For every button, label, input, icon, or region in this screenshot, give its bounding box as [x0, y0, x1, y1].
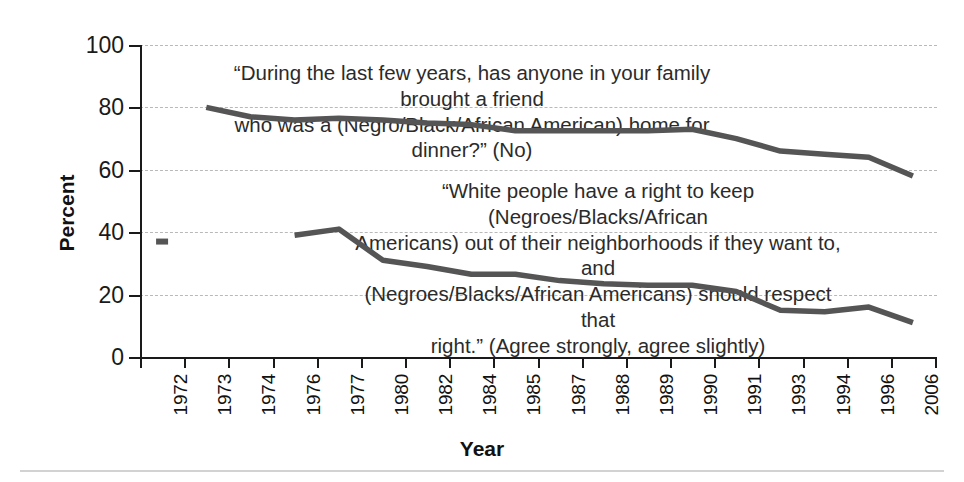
y-tick — [129, 45, 140, 47]
x-tick — [891, 357, 893, 368]
y-tick-label: 80 — [98, 94, 124, 121]
x-tick — [273, 357, 275, 368]
x-tick — [140, 357, 142, 368]
x-tick-label: 1988 — [612, 374, 634, 415]
x-tick-label: 1994 — [833, 374, 855, 415]
x-tick-label: 1980 — [391, 374, 413, 415]
x-tick-label: 1973 — [214, 374, 236, 415]
y-tick-label: 60 — [98, 156, 124, 183]
x-tick-label: 1985 — [523, 374, 545, 415]
x-tick — [184, 357, 186, 368]
x-tick-label: 1996 — [877, 374, 899, 415]
x-tick-label: 1993 — [788, 374, 810, 415]
y-tick — [129, 357, 140, 359]
y-tick-label: 40 — [98, 219, 124, 246]
y-tick — [129, 107, 140, 109]
y-tick-label: 100 — [86, 32, 124, 59]
x-tick-label: 1974 — [258, 374, 280, 415]
y-tick-label: 20 — [98, 281, 124, 308]
x-tick-label: 1982 — [435, 374, 457, 415]
x-tick — [228, 357, 230, 368]
x-tick-label: 1989 — [656, 374, 678, 415]
y-tick — [129, 170, 140, 172]
chart-figure: 020406080100 197219731974197619771980198… — [0, 0, 964, 482]
x-tick-label: 1990 — [700, 374, 722, 415]
y-tick — [129, 295, 140, 297]
x-tick-label: 1977 — [347, 374, 369, 415]
annotation-dinner-question: “During the last few years, has anyone i… — [212, 60, 732, 163]
x-tick-label: 1972 — [170, 374, 192, 415]
y-tick — [129, 232, 140, 234]
x-tick-label: 1991 — [744, 374, 766, 415]
y-axis-title: Percent — [55, 174, 79, 251]
y-tick-label: 0 — [111, 344, 124, 371]
x-axis-title: Year — [0, 437, 964, 461]
x-tick — [317, 357, 319, 368]
x-tick-label: 1984 — [479, 374, 501, 415]
x-tick-label: 1987 — [568, 374, 590, 415]
x-tick-label: 1976 — [303, 374, 325, 415]
x-tick — [935, 357, 937, 368]
annotation-neighborhood-question: “White people have a right to keep (Negr… — [348, 178, 848, 359]
x-tick-label: 2006 — [921, 374, 943, 415]
bottom-divider-rule — [20, 470, 944, 472]
